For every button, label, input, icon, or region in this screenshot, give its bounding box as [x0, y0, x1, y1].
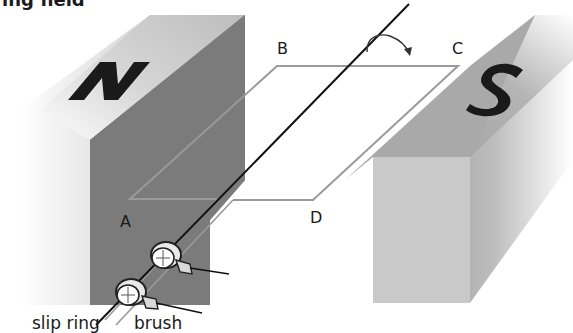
slip-ring-label: slip ring [32, 315, 100, 332]
corner-label-c: C [452, 41, 463, 57]
ac-generator-diagram: ing field [0, 0, 573, 333]
corner-label-b: B [277, 41, 288, 57]
slip-ring-lower [116, 279, 146, 305]
south-magnet [345, 15, 573, 303]
brush-label: brush [134, 315, 182, 332]
corner-label-d: D [310, 210, 322, 226]
corner-label-a: A [120, 214, 131, 230]
slip-ring-upper [151, 242, 181, 268]
rotation-arrow-icon [367, 35, 412, 56]
